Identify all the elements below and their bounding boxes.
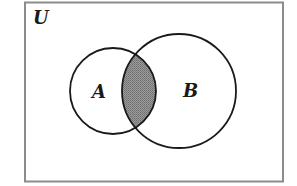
set-b-label: B	[182, 80, 198, 101]
venn-diagram: U A B	[0, 0, 297, 186]
universe-label: U	[33, 7, 50, 28]
set-a-label: A	[90, 81, 106, 102]
